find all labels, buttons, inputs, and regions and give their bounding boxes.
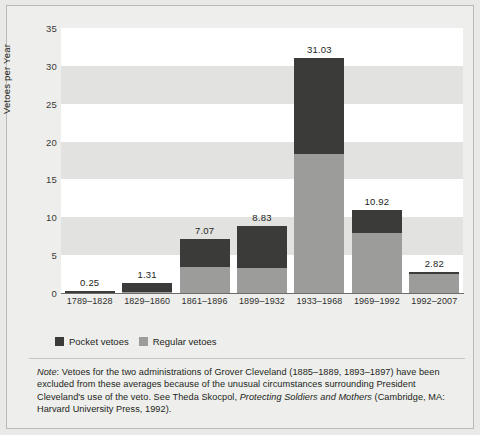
segment-pocket-vetoes <box>294 58 344 154</box>
y-axis-tick-15: 15 <box>13 174 57 185</box>
y-axis-tick-30: 30 <box>13 60 57 71</box>
x-axis-label-1899–1932: 1899–1932 <box>233 296 290 306</box>
y-axis-ticks: 05101520253035 <box>7 6 57 316</box>
x-axis-label-1789–1828: 1789–1828 <box>61 296 118 306</box>
legend-label-regular-vetoes: Regular vetoes <box>153 336 217 347</box>
y-axis-tick-10: 10 <box>13 212 57 223</box>
note-book-title: Protecting Soldiers and Mothers <box>240 392 372 402</box>
segment-regular-vetoes <box>352 233 402 293</box>
bar-value-label-1969–1992: 10.92 <box>364 196 389 207</box>
segment-pocket-vetoes <box>180 239 230 267</box>
x-axis-label-1861–1896: 1861–1896 <box>176 296 233 306</box>
bar-1969–1992[interactable] <box>352 210 402 293</box>
x-axis-label-1992–2007: 1992–2007 <box>406 296 463 306</box>
bar-value-label-1933–1968: 31.03 <box>307 44 332 55</box>
segment-regular-vetoes <box>237 268 287 293</box>
bar-value-label-1861–1896: 7.07 <box>195 225 214 236</box>
x-axis-line <box>61 293 464 294</box>
y-axis-tick-5: 5 <box>13 250 57 261</box>
segment-pocket-vetoes <box>237 226 287 268</box>
y-axis-tick-0: 0 <box>13 288 57 299</box>
note-divider <box>29 358 465 359</box>
segment-regular-vetoes <box>409 274 459 293</box>
bar-1861–1896[interactable] <box>180 239 230 293</box>
bar-value-label-1829–1860: 1.31 <box>137 269 156 280</box>
bar-value-label-1899–1932: 8.83 <box>252 212 271 223</box>
segment-pocket-vetoes <box>122 283 172 292</box>
pocket-vetoes-swatch <box>55 337 64 346</box>
y-axis-tick-20: 20 <box>13 136 57 147</box>
regular-vetoes-swatch <box>139 337 148 346</box>
chart-legend: Pocket vetoes Regular vetoes <box>55 336 217 347</box>
note-lead: Note <box>37 367 57 377</box>
legend-item-regular-vetoes: Regular vetoes <box>139 336 217 347</box>
x-axis-label-1933–1968: 1933–1968 <box>291 296 348 306</box>
legend-label-pocket-vetoes: Pocket vetoes <box>69 336 129 347</box>
segment-regular-vetoes <box>180 267 230 293</box>
bar-1829–1860[interactable] <box>122 283 172 293</box>
figure-note: Note: Vetoes for the two administrations… <box>37 366 461 416</box>
bar-1992–2007[interactable] <box>409 272 459 293</box>
x-axis-label-1829–1860: 1829–1860 <box>118 296 175 306</box>
legend-item-pocket-vetoes: Pocket vetoes <box>55 336 129 347</box>
bar-1899–1932[interactable] <box>237 226 287 293</box>
segment-pocket-vetoes <box>352 210 402 232</box>
bar-value-label-1789–1828: 0.25 <box>80 277 99 288</box>
figure-frame: Vetoes per Year 05101520253035 0.251.317… <box>6 5 474 429</box>
plot-area: 0.251.317.078.8331.0310.922.82 <box>61 28 463 293</box>
segment-pocket-vetoes <box>409 272 459 274</box>
bar-series-group: 0.251.317.078.8331.0310.922.82 <box>61 28 463 293</box>
bar-value-label-1992–2007: 2.82 <box>425 258 444 269</box>
segment-regular-vetoes <box>294 154 344 293</box>
bar-1933–1968[interactable] <box>294 58 344 293</box>
x-axis-label-1969–1992: 1969–1992 <box>348 296 405 306</box>
y-axis-tick-35: 35 <box>13 23 57 34</box>
figure-container: Vetoes per Year 05101520253035 0.251.317… <box>0 0 480 435</box>
y-axis-tick-25: 25 <box>13 98 57 109</box>
